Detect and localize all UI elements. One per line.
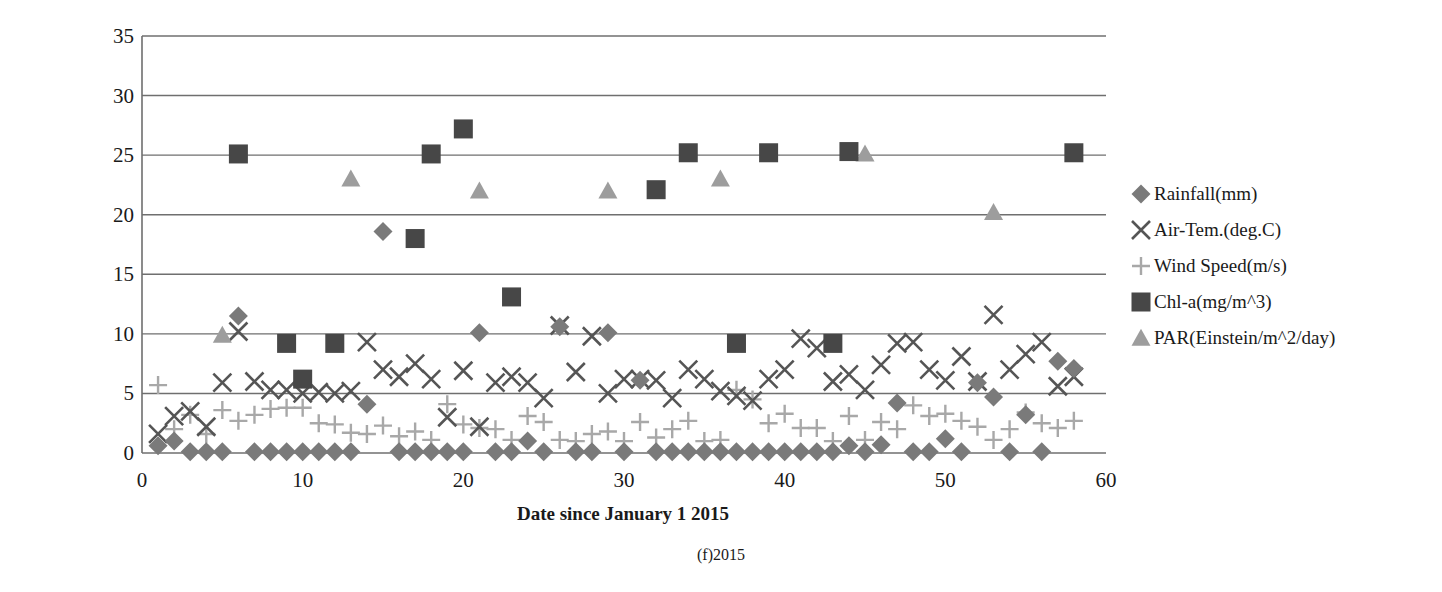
data-point-plus: [840, 407, 858, 425]
data-point-cross: [390, 368, 408, 386]
data-point-plus: [181, 406, 199, 424]
data-point-diamond: [1048, 352, 1067, 371]
legend-item-label: Wind Speed(m/s): [1154, 255, 1287, 277]
data-point-plus: [808, 419, 826, 437]
data-point-cross: [872, 356, 890, 374]
series-air-tem-deg-c: [149, 306, 1083, 443]
data-point-cross: [1017, 345, 1035, 363]
data-point-cross: [310, 383, 328, 401]
data-point-diamond: [872, 435, 891, 454]
data-point-square: [1132, 293, 1151, 312]
data-point-square: [293, 370, 312, 389]
legend-item[interactable]: Chl-a(mg/m^3): [1128, 284, 1438, 320]
data-point-plus: [358, 425, 376, 443]
data-point-cross: [583, 327, 601, 345]
data-point-cross: [519, 374, 537, 392]
triangle-icon: [1128, 327, 1154, 349]
data-point-cross: [760, 370, 778, 388]
data-point-plus: [663, 420, 681, 438]
data-point-diamond: [582, 442, 601, 461]
data-point-diamond: [1016, 405, 1035, 424]
data-point-cross: [824, 373, 842, 391]
data-point-cross: [245, 373, 263, 391]
legend-item-label: Chl-a(mg/m^3): [1154, 291, 1272, 313]
data-point-cross: [904, 333, 922, 351]
square-icon: [1128, 291, 1154, 313]
data-point-square: [839, 142, 858, 161]
legend-item[interactable]: Wind Speed(m/s): [1128, 248, 1438, 284]
data-point-cross: [358, 333, 376, 351]
data-point-plus: [920, 407, 938, 425]
data-point-cross: [920, 361, 938, 379]
data-point-diamond: [1064, 359, 1083, 378]
data-point-plus: [631, 413, 649, 431]
data-point-cross: [1049, 377, 1067, 395]
data-point-diamond: [341, 442, 360, 461]
data-point-diamond: [229, 306, 248, 325]
data-point-square: [647, 180, 666, 199]
data-point-square: [759, 143, 778, 162]
legend-marker-glyph: [1132, 221, 1150, 239]
legend-item-label: PAR(Einstein/m^2/day): [1154, 327, 1335, 349]
data-point-square: [1064, 143, 1083, 162]
data-point-cross: [776, 361, 794, 379]
data-point-square: [422, 144, 441, 163]
legend-marker-glyph: [1132, 329, 1151, 346]
data-point-plus: [583, 425, 601, 443]
data-point-plus: [486, 420, 504, 438]
figure-caption: (f)2015: [0, 546, 1442, 564]
data-point-diamond: [888, 393, 907, 412]
data-point-cross: [952, 347, 970, 365]
data-point-plus: [551, 431, 569, 449]
data-point-plus: [936, 405, 954, 423]
data-point-cross: [374, 361, 392, 379]
data-point-diamond: [598, 323, 617, 342]
data-point-diamond: [984, 388, 1003, 407]
data-point-plus: [1033, 414, 1051, 432]
data-point-cross: [647, 371, 665, 389]
data-point-cross: [262, 381, 280, 399]
data-point-diamond: [920, 442, 939, 461]
data-point-plus: [1065, 412, 1083, 430]
data-point-square: [727, 334, 746, 353]
data-point-cross: [278, 381, 296, 399]
data-point-triangle: [598, 182, 617, 199]
data-point-plus: [952, 412, 970, 430]
legend-item[interactable]: Rainfall(mm): [1128, 176, 1438, 212]
data-point-cross: [503, 368, 521, 386]
data-point-cross: [695, 370, 713, 388]
data-point-plus: [1132, 257, 1150, 275]
data-point-cross: [856, 381, 874, 399]
data-point-diamond: [374, 222, 393, 241]
legend-marker-glyph: [1132, 257, 1150, 275]
data-point-cross: [679, 361, 697, 379]
data-point-diamond: [165, 432, 184, 451]
data-point-plus: [326, 415, 344, 433]
data-point-square: [277, 334, 296, 353]
data-point-cross: [342, 382, 360, 400]
legend-item-label: Air-Tem.(deg.C): [1154, 219, 1281, 241]
data-point-triangle: [711, 170, 730, 187]
data-point-triangle: [1132, 329, 1151, 346]
diamond-icon: [1128, 183, 1154, 205]
data-point-diamond: [357, 395, 376, 414]
data-point-diamond: [936, 429, 955, 448]
data-point-diamond: [470, 323, 489, 342]
data-point-plus: [776, 405, 794, 423]
legend-marker-glyph: [1132, 293, 1151, 312]
data-point-cross: [406, 355, 424, 373]
data-point-diamond: [213, 442, 232, 461]
data-point-plus: [454, 415, 472, 433]
plus-icon: [1128, 255, 1154, 277]
data-point-cross: [985, 306, 1003, 324]
data-point-plus: [872, 413, 890, 431]
data-point-plus: [310, 414, 328, 432]
legend-item[interactable]: PAR(Einstein/m^2/day): [1128, 320, 1438, 356]
data-point-cross: [663, 389, 681, 407]
legend-item[interactable]: Air-Tem.(deg.C): [1128, 212, 1438, 248]
data-point-diamond: [534, 442, 553, 461]
data-point-cross: [486, 374, 504, 392]
data-point-diamond: [454, 442, 473, 461]
data-point-cross: [1001, 361, 1019, 379]
data-point-square: [502, 287, 521, 306]
